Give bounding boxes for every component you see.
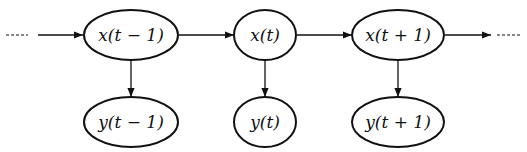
node-x-prev: x(t − 1)	[84, 10, 178, 60]
node-y-next: y(t + 1)	[352, 97, 444, 147]
node-label: y(t − 1)	[97, 112, 164, 132]
node-label: x(t)	[250, 25, 280, 45]
node-y-curr: y(t)	[234, 97, 296, 147]
hmm-diagram: x(t − 1) x(t) x(t + 1) y(t − 1) y(t) y(t…	[0, 0, 527, 152]
node-label: y(t + 1)	[364, 112, 431, 132]
node-x-next: x(t + 1)	[352, 10, 444, 60]
node-label: x(t − 1)	[98, 25, 164, 45]
node-label: x(t + 1)	[365, 25, 431, 45]
node-x-curr: x(t)	[234, 10, 296, 60]
node-label: y(t)	[249, 112, 280, 132]
node-y-prev: y(t − 1)	[84, 97, 178, 147]
